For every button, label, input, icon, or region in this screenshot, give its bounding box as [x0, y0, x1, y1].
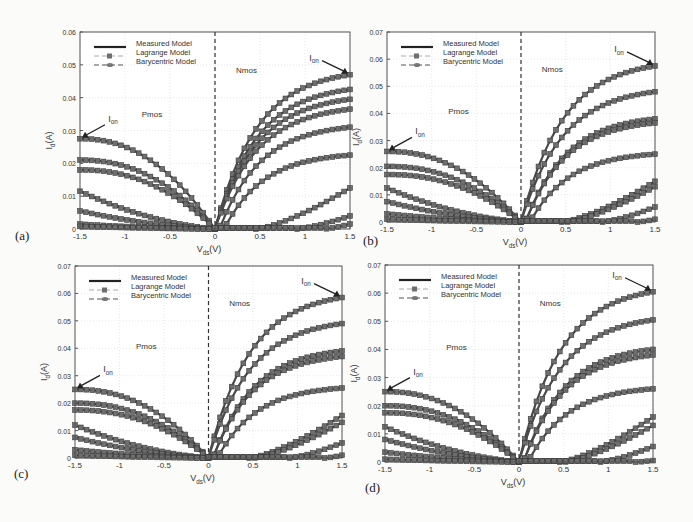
y-tick-label: 0.07 [57, 263, 71, 270]
chart-panel-a: -1.5-1-0.500.511.500.010.020.030.040.050… [15, 29, 356, 256]
x-tick-label: -1.5 [380, 225, 394, 234]
y-tick-label: 0.01 [57, 428, 71, 435]
x-tick-label: 0.5 [560, 225, 572, 234]
x-tick-label: 0.5 [558, 465, 570, 474]
x-tick-label: 1 [606, 465, 611, 474]
y-tick-label: 0.06 [57, 290, 71, 297]
x-tick-label: -1 [428, 225, 436, 234]
x-tick-label: -0.5 [467, 465, 481, 474]
legend-barycentric-label: Barycentric Model [136, 57, 196, 66]
legend-lagrange-marker [412, 287, 417, 292]
y-tick-label: 0.01 [367, 431, 381, 438]
y-tick-label: 0 [67, 455, 71, 462]
legend-measured-label: Measured Model [131, 273, 187, 282]
panel-label: (b) [363, 233, 378, 248]
y-tick-label: 0.04 [62, 95, 76, 102]
y-tick-label: 0.06 [369, 56, 383, 63]
x-tick-label: -0.5 [157, 461, 171, 470]
y-tick-label: 0 [377, 459, 381, 466]
y-axis-label: Id(A) [349, 364, 361, 382]
legend-measured-label: Measured Model [136, 39, 192, 48]
legend-barycentric-marker [412, 296, 418, 300]
legend-lagrange-label: Lagrange Model [131, 282, 186, 291]
x-tick-label: 1.5 [336, 461, 348, 470]
chart-panel-d: -1.5-1-0.500.511.500.010.020.030.040.050… [349, 262, 659, 495]
y-tick-label: 0.02 [57, 400, 71, 407]
y-tick-label: 0.06 [367, 290, 381, 297]
chart-panel-b: -1.5-1-0.500.511.500.010.020.030.040.050… [351, 29, 661, 249]
y-tick-label: 0.03 [367, 375, 381, 382]
nmos-region-label: Nmos [540, 299, 561, 308]
x-tick-label: -1 [121, 232, 129, 241]
legend-lagrange-marker [414, 54, 419, 59]
y-tick-label: 0.07 [367, 262, 381, 269]
y-tick-label: 0.03 [57, 373, 71, 380]
figure-canvas: -1.5-1-0.500.511.500.010.020.030.040.050… [0, 0, 693, 522]
x-tick-label: -1 [426, 465, 434, 474]
legend-barycentric-label: Barycentric Model [131, 291, 191, 300]
x-tick-label: 1 [303, 232, 308, 241]
legend-measured-label: Measured Model [443, 39, 499, 48]
y-tick-label: 0.05 [57, 318, 71, 325]
y-tick-label: 0.02 [369, 165, 383, 172]
nmos-region-label: Nmos [542, 65, 563, 74]
x-tick-label: 1.5 [344, 232, 356, 241]
legend-barycentric-marker [102, 297, 108, 301]
legend-lagrange-label: Lagrange Model [441, 281, 496, 290]
x-tick-label: -1.5 [68, 461, 82, 470]
y-tick-label: 0.05 [369, 83, 383, 90]
y-tick-label: 0 [72, 226, 76, 233]
y-axis-label: Id(A) [44, 131, 56, 149]
chart-panel-c: -1.5-1-0.500.511.500.010.020.030.040.050… [14, 263, 348, 485]
nmos-region-label: Nmos [236, 66, 257, 75]
y-tick-label: 0.02 [62, 160, 76, 167]
y-tick-label: 0.05 [62, 62, 76, 69]
x-axis-label: Vds(V) [501, 477, 526, 489]
y-tick-label: 0.03 [62, 128, 76, 135]
legend-lagrange-marker [102, 288, 107, 293]
x-tick-label: -0.5 [163, 232, 177, 241]
y-tick-label: 0.01 [369, 192, 383, 199]
x-axis-label: Vds(V) [190, 473, 215, 485]
y-tick-label: 0.04 [57, 345, 71, 352]
panel-label: (c) [14, 466, 28, 481]
legend-barycentric-marker [414, 63, 420, 67]
y-tick-label: 0.04 [367, 346, 381, 353]
pmos-region-label: Pmos [136, 342, 156, 351]
x-tick-label: -1.5 [73, 232, 87, 241]
pmos-region-label: Pmos [448, 107, 468, 116]
x-tick-label: 1.5 [649, 225, 661, 234]
nmos-region-label: Nmos [229, 299, 250, 308]
legend-lagrange-label: Lagrange Model [136, 48, 191, 57]
legend-barycentric-marker [107, 63, 113, 67]
x-tick-label: -0.5 [469, 225, 483, 234]
x-tick-label: -1.5 [378, 465, 392, 474]
x-tick-label: 0.5 [254, 232, 266, 241]
y-tick-label: 0.05 [367, 318, 381, 325]
legend-barycentric-label: Barycentric Model [443, 57, 503, 66]
x-tick-label: -1 [116, 461, 124, 470]
legend-barycentric-label: Barycentric Model [441, 290, 501, 299]
y-tick-label: 0.04 [369, 110, 383, 117]
x-axis-label: Vds(V) [197, 244, 222, 256]
x-tick-label: 0.5 [247, 461, 259, 470]
x-tick-label: 0 [517, 465, 522, 474]
y-tick-label: 0 [379, 219, 383, 226]
legend-lagrange-label: Lagrange Model [443, 48, 498, 57]
x-tick-label: 1 [295, 461, 300, 470]
y-tick-label: 0.02 [367, 403, 381, 410]
x-axis-label: Vds(V) [503, 237, 528, 249]
y-tick-label: 0.07 [369, 29, 383, 36]
y-axis-label: Id(A) [39, 363, 51, 381]
pmos-region-label: Pmos [142, 110, 162, 119]
x-tick-label: 0 [213, 232, 218, 241]
panel-label: (d) [365, 480, 380, 495]
legend-measured-label: Measured Model [441, 272, 497, 281]
y-axis-label: Id(A) [351, 128, 363, 146]
y-tick-label: 0.06 [62, 29, 76, 36]
x-tick-label: 0 [206, 461, 211, 470]
x-tick-label: 0 [519, 225, 524, 234]
legend-lagrange-marker [107, 54, 112, 59]
y-tick-label: 0.01 [62, 193, 76, 200]
pmos-region-label: Pmos [446, 343, 466, 352]
